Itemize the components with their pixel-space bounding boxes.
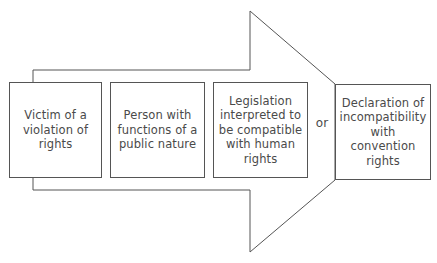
line: rights: [23, 137, 88, 152]
outcome-box-declaration: Declaration of incompatibility with conv…: [335, 84, 431, 180]
line: violation of: [23, 123, 88, 138]
line: with: [340, 125, 427, 140]
line: Legislation: [219, 94, 303, 109]
line: incompatibility: [340, 110, 427, 125]
step-box-public-authority: Person with functions of a public nature: [110, 82, 205, 178]
line: Declaration of: [340, 96, 427, 111]
step-label-legislation: Legislation interpreted to be compatible…: [219, 94, 303, 167]
line: interpreted to: [219, 108, 303, 123]
step-box-legislation: Legislation interpreted to be compatible…: [213, 82, 308, 178]
line: be compatible: [219, 123, 303, 138]
outcome-label: Declaration of incompatibility with conv…: [340, 96, 427, 169]
step-label-victim: Victim of a violation of rights: [23, 108, 88, 152]
line: Person with: [118, 108, 198, 123]
step-label-public-authority: Person with functions of a public nature: [118, 108, 198, 152]
line: rights: [219, 152, 303, 167]
line: Victim of a: [23, 108, 88, 123]
line: with human: [219, 137, 303, 152]
step-box-victim: Victim of a violation of rights: [9, 82, 102, 178]
or-connector-label: or: [313, 116, 331, 130]
line: rights: [340, 154, 427, 169]
line: public nature: [118, 137, 198, 152]
line: functions of a: [118, 123, 198, 138]
line: convention: [340, 139, 427, 154]
